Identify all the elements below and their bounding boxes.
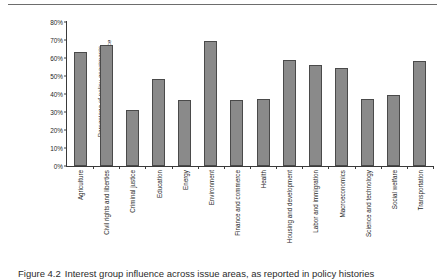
bar (230, 100, 243, 166)
bar (257, 99, 270, 166)
x-axis-category-label-text: Health (260, 170, 267, 188)
figure-caption: Figure 4.2Interest group influence acros… (18, 268, 438, 279)
x-axis-tick-mark (407, 166, 408, 169)
x-axis-tick-mark (224, 166, 225, 169)
y-axis-tick-mark (64, 58, 67, 59)
y-axis-tick-mark (64, 76, 67, 77)
bar (335, 68, 348, 166)
x-axis-category-label-text: Environment (207, 170, 214, 205)
y-axis-title: Percentage of policy enactments with rep… (10, 14, 36, 169)
bar (309, 65, 322, 166)
bar (361, 99, 374, 167)
y-axis-tick-mark (64, 148, 67, 149)
bar (387, 95, 400, 166)
x-axis-tick-mark (355, 166, 356, 169)
x-axis-tick-mark (172, 166, 173, 169)
y-axis-tick-mark (64, 94, 67, 95)
x-axis-category-label-text: Education (155, 170, 162, 198)
x-axis-tick-mark (119, 166, 120, 169)
x-axis-category-label-text: Finance and commerce (233, 170, 240, 236)
y-axis-tick-mark (64, 112, 67, 113)
x-axis-category-label-text: Civil rights and liberties (103, 170, 110, 235)
bar (413, 61, 426, 166)
bar (126, 110, 139, 166)
bar (100, 45, 113, 167)
x-axis-category-label-text: Agriculture (77, 170, 84, 200)
x-axis-tick-mark (328, 166, 329, 169)
x-axis-category-label-text: Criminal justice (129, 170, 136, 213)
bar (283, 60, 296, 166)
x-axis-category-label-text: Science and technology (364, 170, 371, 237)
x-axis-category-labels: AgricultureCivil rights and libertiesCri… (67, 170, 433, 270)
x-axis-tick-mark (250, 166, 251, 169)
bar (204, 41, 217, 166)
plot-area: 0%10%20%30%40%50%60%70%80% (67, 22, 433, 166)
x-axis-tick-mark (93, 166, 94, 169)
caption-number: Figure 4.2 (18, 268, 61, 279)
x-axis-category-label-text: Labor and immigration (312, 170, 319, 233)
x-axis-category-label-text: Macroeconomics (338, 170, 345, 218)
top-horizontal-rule (8, 4, 437, 5)
x-axis-tick-mark (276, 166, 277, 169)
x-axis-category-label-text: Social welfare (390, 170, 397, 209)
x-axis-category-label-text: Housing and development (286, 170, 293, 243)
caption-text: Interest group influence across issue ar… (65, 268, 374, 279)
x-axis-tick-mark (433, 166, 434, 169)
x-axis-tick-mark (198, 166, 199, 169)
bar (178, 100, 191, 166)
x-axis-category-label-text: Transportation (416, 170, 423, 210)
y-axis-tick-mark (64, 22, 67, 23)
bar (74, 52, 87, 166)
x-axis-category-label-text: Energy (181, 170, 188, 190)
y-axis-tick-mark (64, 166, 67, 167)
x-axis-tick-mark (381, 166, 382, 169)
y-axis-tick-mark (64, 130, 67, 131)
x-axis-tick-mark (302, 166, 303, 169)
x-axis-tick-mark (145, 166, 146, 169)
bar (152, 79, 165, 166)
y-axis-tick-mark (64, 40, 67, 41)
